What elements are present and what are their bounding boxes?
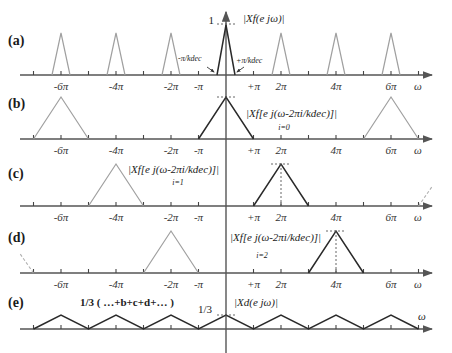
left-edge-label: -π/kdec [178,54,202,63]
replica-spectrum [34,97,89,139]
panel-label: (e) [8,295,24,311]
tick-label: 4π [330,211,342,223]
tick-label: -6π [54,80,69,92]
index-label: i=1 [172,178,184,187]
tick-label: -2π [164,211,179,223]
tick-label: 2π [275,211,287,223]
tick-label: -2π [164,278,179,290]
sum-label: 1/3 ( …+b+c+d+… ) [80,296,174,309]
tick-label: -4π [109,211,124,223]
tick-label: -2π [164,80,179,92]
tick-label: +π [247,80,260,92]
tick-label: -π [194,211,204,223]
tick-label: 4π [330,144,342,156]
tick-label: -6π [54,144,69,156]
tick-label: 4π [330,80,342,92]
omega-label: ω [418,310,426,322]
tick-label: 2π [275,80,287,92]
tick-label: -π [194,144,204,156]
partial-replica [20,253,34,273]
spectrum-label: |Xd(e jω)| [234,296,278,309]
tick-label: 6π [385,144,397,156]
right-edge-arrow [237,67,244,72]
index-label: i=2 [256,251,268,260]
replica-spectrum [52,33,70,75]
replica-spectrum [364,97,419,139]
tick-label: 6π [385,278,397,290]
spectrum-label: |Xf(e jω)| [243,12,285,25]
replica-spectrum [144,231,199,273]
panel-c: (c)-6π-4π-2π-π+π2π4π6πω [8,166,432,223]
tick-label: +π [247,211,260,223]
tick-label: -π [194,80,204,92]
replica-spectrum [327,33,345,75]
tick-label: -π [194,278,204,290]
right-edge-label: +π/kdec [236,56,263,65]
tick-label: 6π [385,80,397,92]
omega-label: ω [414,80,422,92]
partial-replica [419,186,433,206]
spectrum-label: |Xf[e j(ω-2πi/kdec)]| [128,163,219,176]
panel-label: (b) [8,96,25,112]
panel-e: (e) [8,295,432,329]
decimation-spectrum-figure: (a)-6π-4π-2π-π+π2π4π6πω(b)-6π-4π-2π-π+π2… [0,0,452,353]
tick-label: -2π [164,144,179,156]
tick-label: 4π [330,278,342,290]
tick-label: +π [247,278,260,290]
replica-spectrum [382,33,400,75]
omega-label: ω [414,211,422,223]
tick-label: +π [247,144,260,156]
tick-label: -4π [109,144,124,156]
peak-value-label: 1 [209,14,215,26]
replica-spectrum [107,33,125,75]
panel-label: (d) [8,230,25,246]
panel-label: (c) [8,166,24,182]
peak-value-label: 1/3 [198,303,213,315]
spectrum-label: |Xf[e j(ω-2πi/kdec)]| [230,231,321,244]
tick-label: -4π [109,278,124,290]
tick-label: -6π [54,211,69,223]
replica-spectrum [272,33,290,75]
tick-label: 2π [275,278,287,290]
panel-label: (a) [8,33,25,49]
tick-label: 2π [275,144,287,156]
omega-label: ω [414,278,422,290]
spectrum-label: |Xf[e j(ω-2πi/kdec)]| [246,107,337,120]
index-label: i=0 [278,123,290,132]
tick-label: -6π [54,278,69,290]
left-edge-arrow [207,67,214,72]
omega-label: ω [414,144,422,156]
tick-label: -4π [109,80,124,92]
panel-d: (d)-6π-4π-2π-π+π2π4π6πω [8,230,432,290]
tick-label: 6π [385,211,397,223]
